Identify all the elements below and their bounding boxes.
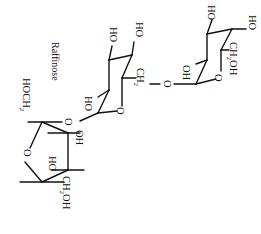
gal-ho-label-1: HO [206, 5, 217, 21]
fru-ring-oxygen: O [22, 149, 33, 157]
galactose-ring: HO HO CH2OH O OH [174, 5, 258, 84]
glc-bond-c3-c2 [122, 55, 132, 78]
fru-oh-label: OH [74, 130, 85, 146]
fru-bond-ring-o-c5 [25, 162, 42, 182]
svg-text:CH2OH: CH2OH [225, 42, 239, 76]
glc-bond-c1-ring-o [98, 111, 117, 113]
glc-bond-c3-ho [132, 42, 134, 55]
raffinose-structure-diagram: Raffinose HO HO CH2OH O OH O [0, 0, 261, 234]
fru-ho-label: HO [47, 156, 58, 172]
glucose-ring: HO HO CH2 O HO [80, 22, 146, 121]
glc-ch2-label: CH2 [132, 68, 146, 87]
gal-bond-c4-ho [207, 20, 212, 34]
glc-bond-c1-glyc [80, 113, 98, 121]
glc-ho-label-3: HO [83, 96, 94, 112]
molecule-title: Raffinose [50, 42, 61, 81]
fru-bond-c2-ring-o [30, 122, 42, 148]
gal-oh-label: OH [181, 65, 192, 81]
glc-ring-oxygen: O [115, 107, 126, 115]
fru-ch2oh-label: CH2OH [58, 176, 72, 210]
svg-text:CH2: CH2 [132, 68, 146, 87]
glc-ho-label-2: HO [134, 22, 145, 38]
gal-ring-oxygen: O [213, 74, 224, 82]
glc-ho-label-1: HO [108, 27, 119, 43]
gal-ho-label-2: HO [247, 15, 258, 31]
gal-bond-c4-c3 [207, 29, 232, 34]
svg-text:CH2OH: CH2OH [58, 176, 72, 210]
svg-text:HOCH2: HOCH2 [18, 78, 32, 112]
glc-bond-c4-ho [109, 46, 112, 60]
gal-ch2oh-label: CH2OH [225, 42, 239, 76]
fructose-ring: HOCH2 O OH HO CH2OH [18, 78, 85, 210]
gal-glc-linkage-oxygen: O [162, 80, 173, 88]
fru-hoch2-label: HOCH2 [18, 78, 32, 112]
glc-bond-c4-c3 [109, 55, 132, 60]
glc-fru-linkage-oxygen: O [63, 118, 74, 126]
gal-bond-c1-ring-o [196, 79, 216, 84]
